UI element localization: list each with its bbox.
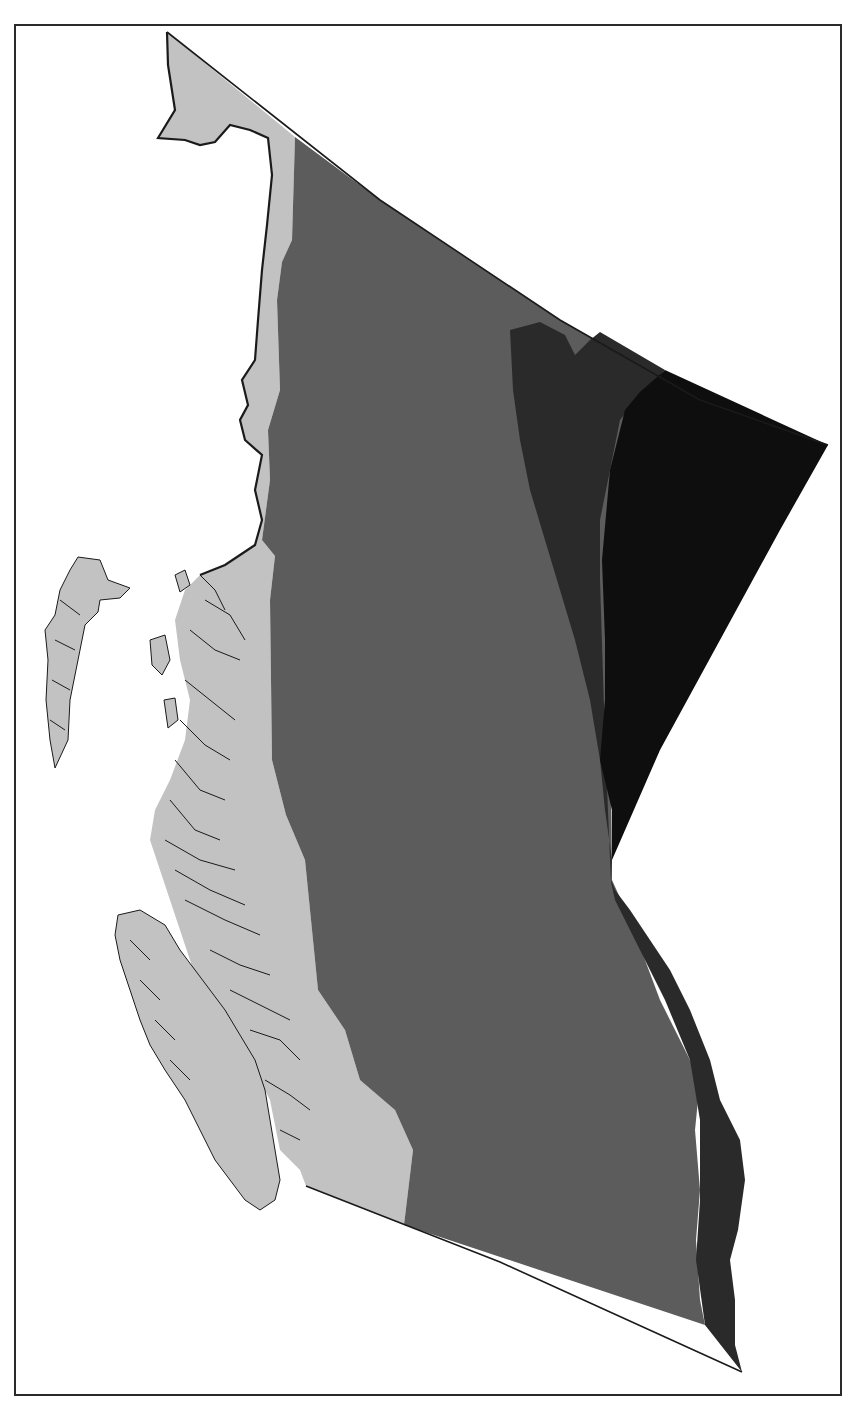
coastal-islet-3 [164, 698, 178, 728]
zone-4-northeast [600, 370, 828, 860]
coastal-islet-2 [150, 635, 170, 675]
haida-gwaii [45, 557, 130, 768]
bc-choropleth-map [0, 0, 859, 1417]
